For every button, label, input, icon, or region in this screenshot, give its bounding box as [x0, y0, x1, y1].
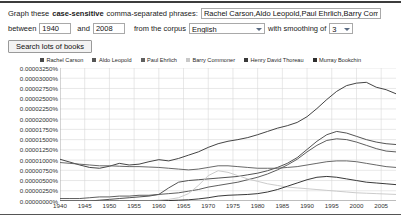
y-axis-tick-label: 0.00003000% [2, 75, 58, 82]
y-axis-tick-label: 0.00000250% [2, 187, 58, 194]
x-axis-tick-label: 1985 [275, 202, 289, 210]
x-axis-labels: 1940194519501955196019651970197519801985… [60, 202, 396, 212]
series-line [60, 139, 396, 199]
legend-swatch-icon [40, 58, 44, 62]
y-axis-tick-label: 0.00001500% [2, 136, 58, 143]
phrase-input[interactable] [201, 8, 381, 19]
y-axis-tick-label: 0.00002000% [2, 116, 58, 123]
x-axis-tick-label: 1965 [177, 202, 191, 210]
series-line [60, 82, 396, 168]
x-axis-tick-label: 1950 [103, 202, 117, 210]
y-axis-tick-label: 0.00002750% [2, 85, 58, 92]
y-axis-tick-label: 0.00000750% [2, 167, 58, 174]
legend-label: Barry Commoner [192, 57, 235, 64]
y-axis-tick-label: 0.00003250% [2, 65, 58, 72]
legend-swatch-icon [244, 58, 248, 62]
case-sensitive-label: case-sensitive [52, 9, 103, 18]
and-label: and [77, 24, 90, 33]
bottom-divider [0, 214, 401, 215]
legend-item[interactable]: Aldo Leopold [92, 57, 131, 64]
x-axis-tick-label: 1995 [325, 202, 339, 210]
range-row: between and from the corpus English with… [0, 22, 401, 35]
legend-item[interactable]: Henry David Thoreau [244, 57, 304, 64]
y-axis-tick-label: 0.00001000% [2, 157, 58, 164]
y-axis-tick-label: 0.00002250% [2, 105, 58, 112]
ngram-viewer-page: Graph these case-sensitive comma-separat… [0, 0, 401, 221]
plot-area [60, 68, 396, 201]
x-axis-tick-label: 1945 [78, 202, 92, 210]
series-line [60, 161, 396, 170]
x-axis-tick-label: 2005 [374, 202, 388, 210]
graph-label-prefix: Graph these [8, 9, 49, 18]
legend-item[interactable]: Murray Bookchin [313, 57, 361, 64]
x-axis-tick-label: 1960 [152, 202, 166, 210]
chart-legend: Rachel CarsonAldo LeopoldPaul EhrlichBar… [0, 55, 401, 65]
series-line [60, 176, 396, 201]
x-axis-tick-label: 1990 [300, 202, 314, 210]
x-axis-tick-label: 1940 [53, 202, 67, 210]
start-year-input[interactable] [39, 23, 71, 34]
y-axis-tick-label: 0.00001250% [2, 146, 58, 153]
search-button[interactable]: Search lots of books [8, 40, 92, 53]
corpus-label: from the corpus [134, 24, 186, 33]
legend-label: Paul Ehrlich [147, 57, 177, 64]
top-divider [0, 1, 401, 3]
smoothing-selected-value: 3 [332, 25, 336, 34]
query-form: Graph these case-sensitive comma-separat… [0, 7, 401, 53]
chevron-down-icon [256, 28, 262, 31]
legend-item[interactable]: Barry Commoner [186, 57, 235, 64]
x-axis-tick-label: 2000 [350, 202, 364, 210]
smoothing-select[interactable]: 3 [329, 23, 353, 34]
x-axis-tick-label: 1980 [251, 202, 265, 210]
corpus-select[interactable]: English [189, 23, 265, 34]
legend-swatch-icon [313, 58, 317, 62]
plot-svg [60, 68, 396, 201]
legend-swatch-icon [141, 58, 145, 62]
x-axis-tick-label: 1970 [201, 202, 215, 210]
x-axis-tick-label: 1975 [226, 202, 240, 210]
ngram-chart: 0.00000000%0.00000250%0.00000500%0.00000… [0, 68, 401, 208]
smoothing-label: with smoothing of [268, 24, 326, 33]
x-axis-tick-label: 1955 [127, 202, 141, 210]
y-axis-labels: 0.00000000%0.00000250%0.00000500%0.00000… [0, 68, 58, 208]
chevron-down-icon [344, 28, 350, 31]
end-year-input[interactable] [93, 23, 125, 34]
graph-label-suffix: comma-separated phrases: [107, 9, 198, 18]
legend-label: Murray Bookchin [319, 57, 361, 64]
y-axis-tick-label: 0.00001750% [2, 126, 58, 133]
corpus-selected-value: English [192, 25, 217, 34]
legend-label: Henry David Thoreau [251, 57, 304, 64]
y-axis-tick-label: 0.00000000% [2, 198, 58, 205]
legend-swatch-icon [186, 58, 190, 62]
legend-item[interactable]: Rachel Carson [40, 57, 84, 64]
legend-label: Rachel Carson [46, 57, 83, 64]
legend-item[interactable]: Paul Ehrlich [141, 57, 177, 64]
y-axis-tick-label: 0.00002500% [2, 95, 58, 102]
legend-swatch-icon [92, 58, 96, 62]
legend-label: Aldo Leopold [99, 57, 132, 64]
phrase-row: Graph these case-sensitive comma-separat… [0, 7, 401, 20]
y-axis-tick-label: 0.00000500% [2, 177, 58, 184]
between-label: between [8, 24, 36, 33]
